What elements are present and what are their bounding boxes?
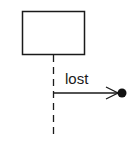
message-label: lost	[65, 70, 89, 87]
lifeline-head-box	[23, 12, 85, 55]
lost-endpoint-dot-icon	[118, 89, 127, 98]
sequence-diagram: lost	[0, 0, 133, 154]
